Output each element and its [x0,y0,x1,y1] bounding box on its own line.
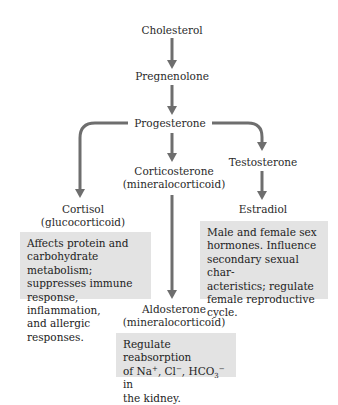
arrow-progesterone-testosterone [212,123,262,144]
sex-hormone-desc-line: secondary sexual char- [207,253,321,280]
cortisol-class: (glucocorticoid) [41,216,125,229]
sex-hormone-desc-line: hormones. Influence [207,239,321,252]
aldosterone-desc-line: the kidney. [123,392,229,405]
text-na: of Na [123,365,152,377]
aldosterone-name: Aldosterone [123,303,226,316]
cortisol-desc-line: Affects protein and [27,237,144,250]
arrow-progesterone-cortisol [80,123,128,191]
node-testosterone: Testosterone [229,156,297,169]
hco-charge: − [219,364,225,372]
node-corticosterone: Corticosterone (mineralocorticoid) [123,165,226,191]
cortisol-description-box: Affects protein and carbohydrate metabol… [20,232,151,299]
corticosterone-name: Corticosterone [123,165,226,178]
node-progesterone: Progesterone [134,117,205,130]
sex-hormones-description-box: Male and female sex hormones. Influence … [200,221,328,299]
aldosterone-description-box: Regulate reabsorption of Na+, Cl−, HCO3−… [116,333,236,377]
cortisol-desc-line: carbohydrate metabolism; [27,250,144,277]
aldosterone-desc-line: Regulate reabsorption [123,338,229,365]
sex-hormone-desc-line: acteristics; regulate [207,280,321,293]
corticosterone-class: (mineralocorticoid) [123,178,226,191]
aldosterone-desc-line: of Na+, Cl−, HCO3− in [123,365,229,392]
text-hco: , HCO [182,365,214,377]
hco-subscript: 3 [214,372,218,380]
sex-hormone-desc-line: Male and female sex [207,226,321,239]
node-cortisol: Cortisol (glucocorticoid) [41,203,125,229]
aldosterone-class: (mineralocorticoid) [123,316,226,329]
node-estradiol: Estradiol [239,203,287,216]
node-pregnenolone: Pregnenolone [135,70,209,83]
text-cl: , Cl [158,365,176,377]
cortisol-desc-line: suppresses immune [27,277,144,290]
text-in: in [123,378,133,390]
node-aldosterone: Aldosterone (mineralocorticoid) [123,303,226,329]
cortisol-name: Cortisol [41,203,125,216]
node-cholesterol: Cholesterol [141,24,202,37]
